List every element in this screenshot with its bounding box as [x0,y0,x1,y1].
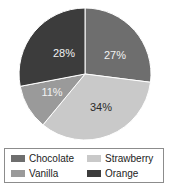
legend-item-orange[interactable]: Orange [84,168,160,179]
legend-swatch-strawberry-icon [87,155,101,162]
legend-swatch-orange-icon [87,170,101,177]
pie-chart-figure: 27% 34% 11% 28% Chocolate Strawberry Van… [0,0,170,188]
legend-label-vanilla: Vanilla [29,168,58,179]
legend-label-strawberry: Strawberry [105,153,153,164]
pie-svg: 27% 34% 11% 28% [15,4,155,144]
pie-label-vanilla: 11% [41,86,62,98]
legend-item-vanilla[interactable]: Vanilla [8,168,84,179]
pie-label-chocolate: 27% [104,49,126,61]
pie-plot-area: 27% 34% 11% 28% [0,4,170,144]
legend-label-orange: Orange [105,168,138,179]
legend-item-chocolate[interactable]: Chocolate [8,153,84,164]
legend-swatch-chocolate-icon [11,155,25,162]
pie-slice-chocolate[interactable] [85,8,151,82]
legend-item-strawberry[interactable]: Strawberry [84,153,160,164]
legend-swatch-vanilla-icon [11,170,25,177]
legend-label-chocolate: Chocolate [29,153,74,164]
pie-label-strawberry: 34% [90,101,112,113]
chart-legend: Chocolate Strawberry Vanilla Orange [4,148,164,183]
pie-label-orange: 28% [53,47,75,59]
